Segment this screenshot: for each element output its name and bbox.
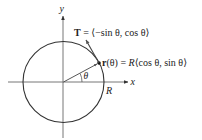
position-coefficient: R bbox=[128, 57, 135, 68]
circle-diagram: y x R θ T = ⟨−sin θ, cos θ⟩ r(θ) = R⟨cos… bbox=[0, 0, 202, 140]
position-argument: (θ) bbox=[106, 57, 117, 69]
radius-label: R bbox=[105, 85, 112, 96]
position-equals: = bbox=[118, 57, 129, 68]
tangent-equation: T = ⟨−sin θ, cos θ⟩ bbox=[74, 27, 149, 38]
angle-arc bbox=[80, 74, 82, 82]
position-equation: r(θ) = R⟨cos θ, sin θ⟩ bbox=[102, 57, 187, 69]
tangent-equals: = bbox=[81, 27, 92, 38]
y-axis-label: y bbox=[59, 3, 65, 14]
angle-label: θ bbox=[84, 71, 89, 81]
tangent-vector bbox=[86, 40, 99, 63]
tangent-expression: ⟨−sin θ, cos θ⟩ bbox=[91, 27, 149, 38]
position-expression: ⟨cos θ, sin θ⟩ bbox=[135, 57, 187, 68]
x-axis-label: x bbox=[130, 76, 136, 87]
position-vector bbox=[64, 64, 98, 82]
